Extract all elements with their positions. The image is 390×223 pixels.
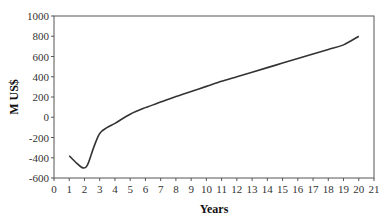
- y-tick-label: 600: [33, 51, 50, 63]
- x-tick-label: 3: [97, 183, 103, 195]
- y-tick-label: 0: [44, 111, 50, 123]
- y-tick-label: -400: [29, 152, 50, 164]
- y-tick-label: -200: [29, 132, 50, 144]
- x-tick-label: 0: [51, 183, 57, 195]
- y-tick-label: 400: [33, 71, 50, 83]
- y-tick-label: 800: [33, 30, 50, 42]
- y-axis: 10008006004002000-200-400-600: [27, 10, 54, 184]
- x-tick-label: 16: [292, 183, 304, 195]
- x-tick-label: 7: [158, 183, 164, 195]
- series-line: [69, 36, 359, 168]
- x-tick-label: 8: [173, 183, 179, 195]
- x-tick-label: 14: [262, 183, 274, 195]
- x-tick-label: 1: [66, 183, 72, 195]
- y-axis-title: M US$: [7, 79, 21, 115]
- x-tick-label: 11: [216, 183, 227, 195]
- x-tick-label: 5: [127, 183, 133, 195]
- line-chart: 10008006004002000-200-400-600 0123456789…: [0, 0, 390, 223]
- x-tick-label: 15: [277, 183, 289, 195]
- x-tick-label: 2: [82, 183, 88, 195]
- x-tick-label: 4: [112, 183, 118, 195]
- y-tick-label: -600: [29, 172, 50, 184]
- plot-frame: [54, 16, 374, 178]
- y-tick-label: 1000: [27, 10, 50, 22]
- x-tick-label: 20: [353, 183, 365, 195]
- x-axis: 0123456789101112131415161718192021: [51, 178, 379, 195]
- x-axis-title: Years: [200, 202, 229, 216]
- x-tick-label: 19: [338, 183, 350, 195]
- x-tick-label: 10: [201, 183, 213, 195]
- x-tick-label: 12: [231, 183, 242, 195]
- y-tick-label: 200: [33, 91, 50, 103]
- x-tick-label: 6: [143, 183, 149, 195]
- x-tick-label: 21: [369, 183, 380, 195]
- x-tick-label: 18: [323, 183, 335, 195]
- x-tick-label: 9: [188, 183, 194, 195]
- x-tick-label: 13: [247, 183, 259, 195]
- x-tick-label: 17: [308, 183, 320, 195]
